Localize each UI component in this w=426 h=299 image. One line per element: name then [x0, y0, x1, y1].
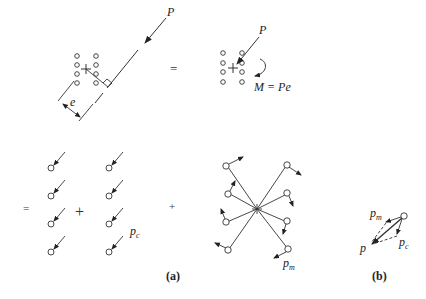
line-of-action	[107, 50, 138, 88]
centroid-cross-2	[228, 63, 238, 73]
plus-sign-2: +	[169, 200, 175, 212]
moment-arrow	[255, 59, 265, 76]
caption-b: (b)	[372, 269, 387, 283]
resultant-p-label: p	[359, 241, 366, 255]
force-p-label: P	[166, 5, 175, 19]
moment-label: M = Pe	[253, 80, 291, 94]
force-p-label-2: P	[258, 23, 267, 37]
force-p-arrow-2	[237, 37, 259, 64]
resultant-pc-label: pc	[398, 235, 409, 251]
direct-shear-label: pc	[129, 224, 140, 240]
plus-sign-1: +	[75, 203, 84, 220]
eccentric-bolt-group-diagram: P e = P M = Pe = +	[0, 0, 426, 299]
direct-shear-column-1	[48, 152, 65, 255]
caption-a: (a)	[166, 269, 180, 283]
equals-sign-bottom: =	[23, 202, 29, 214]
equals-sign-top: =	[170, 61, 177, 76]
direct-shear-column-2	[106, 152, 123, 255]
eccentricity-label: e	[70, 95, 76, 109]
force-p-arrow	[145, 18, 166, 43]
moment-shear-group	[215, 157, 301, 258]
moment-shear-label: pm	[282, 256, 295, 272]
resultant-pm-label: pm	[369, 206, 382, 222]
